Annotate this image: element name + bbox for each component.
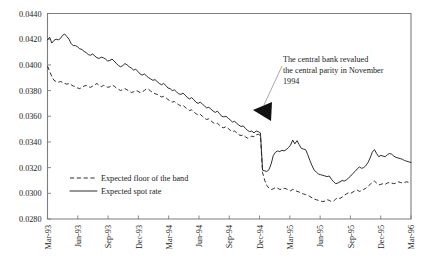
y-axis-tick-label: 0.0300	[19, 189, 42, 198]
y-axis-tick-label: 0.0320	[19, 164, 42, 173]
y-axis-tick-label: 0.0280	[19, 215, 42, 224]
y-axis-tick-labels: 0.02800.03000.03200.03400.03600.03800.04…	[19, 10, 42, 225]
chart-background	[0, 0, 425, 272]
line-chart: 0.02800.03000.03200.03400.03600.03800.04…	[0, 0, 425, 272]
y-axis-tick-label: 0.0340	[19, 138, 42, 147]
annotation-line-1: The central bank revalued	[283, 55, 368, 64]
x-axis-tick-label: Mar-95	[286, 225, 295, 249]
annotation-line-3: 1994	[283, 77, 299, 86]
y-axis-tick-label: 0.0420	[19, 35, 42, 44]
x-axis-tick-label: Jun-93	[74, 225, 83, 247]
y-axis-tick-label: 0.0440	[19, 10, 42, 19]
y-axis-tick-label: 0.0400	[19, 61, 42, 70]
annotation-line-2: the central parity in November	[283, 66, 384, 75]
x-axis-tick-label: Dec-94	[256, 225, 265, 249]
chart-page: 0.02800.03000.03200.03400.03600.03800.04…	[0, 0, 425, 272]
legend-label-floor: Expected floor of the band	[101, 174, 188, 183]
y-axis-tick-label: 0.0380	[19, 87, 42, 96]
x-axis-tick-label: Mar-93	[44, 225, 53, 249]
x-axis-tick-label: Sep-94	[225, 225, 234, 248]
x-axis-tick-label: Sep-93	[104, 225, 113, 248]
x-axis-tick-label: Dec-95	[377, 225, 386, 249]
x-axis-tick-label: Jun-94	[195, 225, 204, 247]
legend-label-spot: Expected spot rate	[101, 187, 162, 196]
x-axis-tick-label: Jun-95	[316, 225, 325, 247]
x-axis-tick-label: Dec-93	[135, 225, 144, 249]
y-axis-tick-label: 0.0360	[19, 112, 42, 121]
x-axis-tick-label: Mar-96	[407, 225, 416, 249]
x-axis-tick-label: Mar-94	[165, 225, 174, 249]
x-axis-tick-label: Sep-95	[347, 225, 356, 248]
